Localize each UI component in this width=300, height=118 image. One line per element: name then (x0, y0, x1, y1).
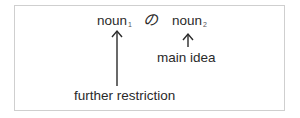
up-arrow-long-icon (110, 29, 124, 87)
noun2-term: noun2 (172, 13, 207, 33)
main-idea-label: main idea (157, 50, 216, 66)
further-restriction-label: further restriction (74, 88, 175, 104)
noun1-text: noun (97, 13, 127, 28)
noun2-subscript: 2 (203, 21, 207, 28)
particle-no: の (143, 12, 158, 28)
up-arrow-short-icon (181, 32, 195, 48)
noun1-subscript: 1 (128, 21, 132, 28)
noun2-text: noun (172, 13, 202, 28)
